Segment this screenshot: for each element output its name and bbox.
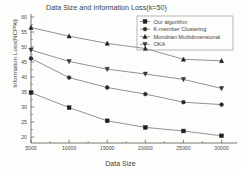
y-tick-label: 55	[21, 29, 27, 35]
y-tick-label: 25	[21, 119, 27, 125]
y-tick-label: 30	[21, 104, 27, 110]
x-tick-label: 20000	[138, 145, 153, 151]
legend-label-1: Our algorithm	[154, 19, 188, 25]
chart-title: Data Size and Information Loss(k=50)	[46, 3, 167, 12]
x-axis-label: Data Size	[0, 160, 241, 167]
y-tick-label: 40	[21, 74, 27, 80]
legend-marker-2	[143, 27, 147, 31]
series-line-1	[31, 93, 222, 136]
x-tick-label: 10000	[62, 145, 77, 151]
data-point	[67, 76, 71, 80]
y-tick-label: 45	[21, 59, 27, 65]
data-point	[105, 119, 109, 123]
series-1	[29, 91, 223, 138]
y-tick-label: 60	[21, 14, 27, 20]
data-point	[29, 25, 33, 29]
series-4	[29, 48, 224, 91]
y-axis-label: Information Loss(NCP%)	[11, 4, 18, 104]
data-point	[182, 100, 186, 104]
legend: Our algorithmK-member ClusteringMondrian…	[137, 16, 233, 50]
data-point	[220, 103, 224, 107]
data-point	[182, 129, 186, 133]
legend-label-4: OKA	[154, 41, 166, 47]
y-tick-label: 35	[21, 89, 27, 95]
data-point	[143, 92, 147, 96]
plot-area: 2025303540455055605000100001500020000250…	[0, 0, 241, 170]
x-tick-label: 25000	[176, 145, 191, 151]
y-tick-label: 50	[21, 44, 27, 50]
x-tick-label: 30000	[214, 145, 229, 151]
legend-marker-1	[143, 20, 147, 24]
series-2	[29, 57, 223, 107]
series-line-4	[31, 50, 222, 88]
data-point	[29, 57, 33, 61]
data-point	[67, 106, 71, 110]
legend-label-3: Mondrian Multidimensional	[154, 34, 221, 40]
data-point	[220, 134, 224, 138]
data-point	[29, 91, 33, 95]
data-point	[143, 126, 147, 130]
legend-label-2: K-member Clustering	[154, 26, 207, 32]
x-tick-label: 5000	[25, 145, 37, 151]
chart-figure: Data Size and Information Loss(k=50) Inf…	[0, 0, 241, 170]
x-tick-label: 15000	[100, 145, 115, 151]
y-tick-label: 20	[21, 134, 27, 140]
data-point	[105, 86, 109, 90]
data-point	[219, 87, 223, 91]
series-line-3	[31, 28, 222, 61]
